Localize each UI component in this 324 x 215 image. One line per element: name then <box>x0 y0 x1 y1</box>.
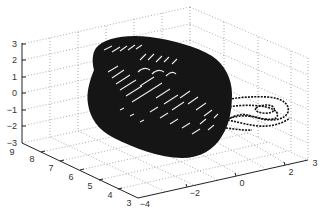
x-tick-label: −4 <box>140 199 150 209</box>
y-tick-label: 3 <box>126 198 131 208</box>
x-tick-label: 2 <box>288 167 293 177</box>
z-tick-label: 3 <box>12 39 17 49</box>
x-tick-label: 3 <box>312 158 317 168</box>
z-tick-label: 2 <box>12 55 17 65</box>
x-tick-labels: −4 −2 0 2 3 <box>140 158 318 209</box>
3d-surface-plot: 3 2 1 0 −1 −2 −3 9 8 7 6 5 4 3 −4 −2 0 2… <box>0 0 324 215</box>
x-tick-label: 0 <box>239 178 244 188</box>
z-tick-labels: 3 2 1 0 −1 −2 −3 <box>7 39 17 148</box>
z-tick-label: 0 <box>12 88 17 98</box>
x-tick-label: −2 <box>190 188 200 198</box>
y-tick-label: 7 <box>48 163 53 173</box>
y-tick-label: 4 <box>107 190 112 200</box>
y-tick-label: 9 <box>9 147 14 157</box>
y-tick-labels: 9 8 7 6 5 4 3 <box>9 147 131 208</box>
z-tick-label: 1 <box>12 72 17 82</box>
y-tick-label: 8 <box>29 154 34 164</box>
y-tick-label: 6 <box>68 172 73 182</box>
y-tick-label: 5 <box>87 181 92 191</box>
z-tick-label: −2 <box>7 121 17 131</box>
z-tick-label: −1 <box>7 105 17 115</box>
mesh-surface <box>87 36 232 158</box>
